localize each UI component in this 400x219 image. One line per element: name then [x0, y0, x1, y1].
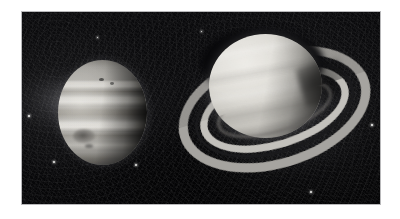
saturn-stage [172, 28, 377, 186]
jupiter-disk [58, 60, 147, 165]
moon-or-star-3 [28, 115, 30, 117]
moon-or-star-4 [310, 191, 312, 193]
planet-saturn [172, 28, 377, 186]
planet-jupiter [58, 60, 147, 165]
astronomy-photo-plate [21, 11, 381, 205]
page-root [0, 0, 400, 219]
moon-or-star-5 [371, 124, 373, 126]
jupiter-terminator-shadow [58, 60, 147, 165]
